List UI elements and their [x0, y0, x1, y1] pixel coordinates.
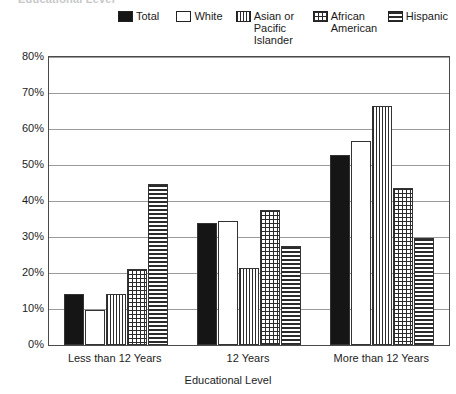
x-axis-title: Educational Level — [0, 374, 456, 386]
bar[interactable] — [351, 141, 371, 345]
bar-group — [316, 57, 449, 345]
bar[interactable] — [148, 184, 168, 345]
bar[interactable] — [330, 155, 350, 345]
bar[interactable] — [414, 238, 434, 345]
bar[interactable] — [64, 294, 84, 345]
bar[interactable] — [239, 268, 259, 345]
y-axis-tick-label: 50% — [4, 158, 44, 170]
y-axis-tick-label: 40% — [4, 194, 44, 206]
y-axis-tick-label: 70% — [4, 86, 44, 98]
bar[interactable] — [85, 310, 105, 345]
bar[interactable] — [372, 106, 392, 345]
bar[interactable] — [281, 246, 301, 345]
y-axis-tick-label: 80% — [4, 50, 44, 62]
x-axis-tick-label: 12 Years — [181, 352, 314, 364]
chart-plot-wrapper: 0%10%20%30%40%50%60%70%80% Educational L… — [0, 0, 456, 394]
bar[interactable] — [393, 188, 413, 345]
bar[interactable] — [106, 294, 126, 345]
x-axis-tick-label: Less than 12 Years — [48, 352, 181, 364]
y-axis-tick-label: 60% — [4, 122, 44, 134]
y-axis-tick-label: 20% — [4, 266, 44, 278]
bar[interactable] — [218, 221, 238, 345]
bar-group — [182, 57, 315, 345]
bar-group — [49, 57, 182, 345]
y-axis-tick-labels: 0%10%20%30%40%50%60%70%80% — [0, 56, 44, 345]
plot-area — [48, 56, 450, 346]
y-axis-tick-label: 10% — [4, 302, 44, 314]
x-axis-tick-label: More than 12 Years — [315, 352, 448, 364]
y-axis-tick-label: 30% — [4, 230, 44, 242]
bar[interactable] — [260, 210, 280, 345]
bar[interactable] — [127, 269, 147, 345]
y-axis-tick-label: 0% — [4, 338, 44, 350]
bar[interactable] — [197, 223, 217, 345]
